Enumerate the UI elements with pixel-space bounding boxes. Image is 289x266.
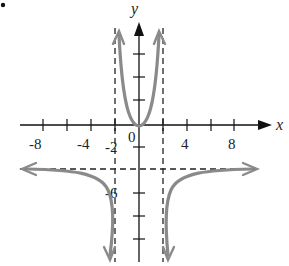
x-tick-label-neg8: -8 xyxy=(29,136,42,152)
x-tick-label-8: 8 xyxy=(228,136,236,152)
y-axis-label: y xyxy=(129,0,139,18)
x-axis-arrow-icon xyxy=(258,120,272,130)
right-branch-curve xyxy=(166,169,252,255)
x-tick-label-neg4: -4 xyxy=(77,136,90,152)
x-tick-label-4: 4 xyxy=(181,136,189,152)
asymptotes xyxy=(20,28,255,262)
graph: y x 0 -8 -4 4 8 -2 -6 xyxy=(0,0,289,266)
bullet-marker xyxy=(1,3,5,7)
left-branch-curve xyxy=(27,169,113,255)
origin-label: 0 xyxy=(128,129,136,145)
x-axis-label: x xyxy=(275,116,283,133)
y-axis-arrow-icon xyxy=(134,22,144,36)
y-tick-label-neg2: -2 xyxy=(105,139,118,155)
